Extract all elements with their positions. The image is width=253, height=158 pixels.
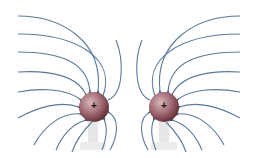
field-diagram [0, 0, 253, 158]
right-field-lines [137, 16, 240, 152]
right-charge-sign: + [159, 101, 169, 111]
left-charge-sign: + [89, 101, 99, 111]
left-stand [80, 120, 106, 150]
left-field-lines [18, 16, 121, 152]
